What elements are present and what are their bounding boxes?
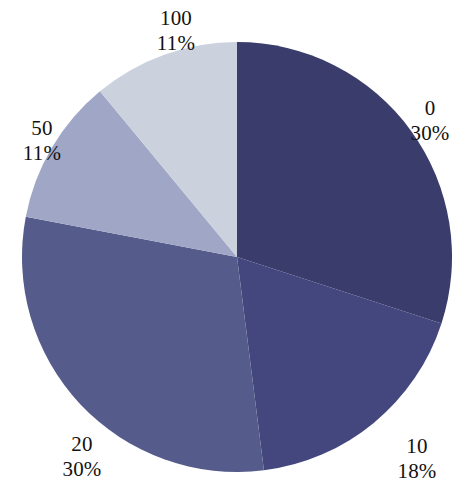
pie-chart: 100 11% 0 30% 50 11% 20 30% 10 18% [0,0,468,497]
pie-label-100-name: 100 [124,6,228,31]
pie-label-50: 50 11% [4,116,80,166]
pie-label-10-percent: 18% [378,459,456,484]
pie-label-0-name: 0 [396,96,464,121]
pie-label-50-name: 50 [4,116,80,141]
pie-label-10-name: 10 [378,434,456,459]
pie-label-20-percent: 30% [34,457,130,482]
pie-label-20-name: 20 [34,432,130,457]
pie-slice-group [22,42,452,472]
pie-label-50-percent: 11% [4,141,80,166]
pie-chart-canvas [0,0,468,497]
pie-label-10: 10 18% [378,434,456,484]
pie-label-0-percent: 30% [396,121,464,146]
pie-label-100: 100 11% [124,6,228,56]
pie-label-0: 0 30% [396,96,464,146]
pie-label-100-percent: 11% [124,31,228,56]
pie-label-20: 20 30% [34,432,130,482]
